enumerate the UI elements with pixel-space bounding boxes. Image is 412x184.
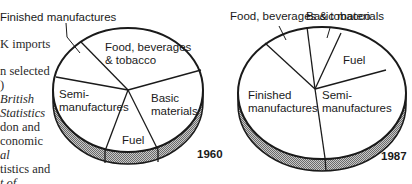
label-food-1960-l2: & tobacco <box>105 54 156 66</box>
label-finished-1987-l2: manufactures <box>248 102 318 114</box>
label-fuel-1987: Fuel <box>343 54 365 66</box>
label-basic-1987: Basic materials <box>306 10 384 22</box>
label-finished-1987-l1: Finished <box>248 89 291 101</box>
label-basic-1960-l2: materials <box>151 105 198 117</box>
year-label-1960: 1960 <box>197 148 223 160</box>
label-finished-manufactures-1960: Finished manufactures <box>0 11 117 23</box>
label-fuel-1960: Fuel <box>122 134 144 146</box>
pie-1960: Finished manufactures Food, beverages & … <box>0 11 223 164</box>
pie-charts: Finished manufactures Food, beverages & … <box>0 0 412 184</box>
label-semi-1987-l1: Semi- <box>322 89 352 101</box>
label-semi-1960-l2: manufactures <box>59 101 129 113</box>
label-semi-1960-l1: Semi- <box>59 88 89 100</box>
label-food-1960-l1: Food, beverages <box>105 41 192 53</box>
label-semi-1987-l2: manufactures <box>322 102 392 114</box>
label-basic-1960-l1: Basic <box>151 92 179 104</box>
year-label-1987: 1987 <box>381 150 407 162</box>
pie-1987: Food, beverages & tobacco Basic material… <box>230 10 407 171</box>
